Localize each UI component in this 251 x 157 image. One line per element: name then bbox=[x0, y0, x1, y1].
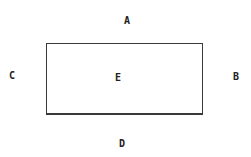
label-right: B bbox=[233, 72, 239, 82]
label-left: C bbox=[9, 71, 15, 81]
label-center: E bbox=[115, 73, 121, 83]
rectangle-shape bbox=[46, 43, 203, 115]
label-bottom: D bbox=[119, 139, 125, 149]
label-top: A bbox=[124, 16, 130, 26]
